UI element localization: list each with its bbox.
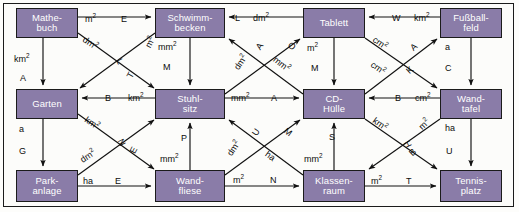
edge-label-e20: ha bbox=[83, 177, 93, 186]
edge-label-e28: ha bbox=[445, 124, 455, 133]
node-wandfliese[interactable]: Wand- fliese bbox=[155, 170, 225, 202]
edge-label-e11: m2 bbox=[307, 44, 318, 53]
node-wandtafel[interactable]: Wand- tafel bbox=[440, 89, 502, 119]
edge-label-exponent: 2 bbox=[319, 152, 323, 159]
edge-label-exponent: 2 bbox=[173, 40, 177, 47]
edge-label-exponent: 2 bbox=[426, 11, 430, 18]
node-tablett[interactable]: Tablett bbox=[303, 8, 365, 38]
edge-label-e01: E bbox=[121, 15, 127, 24]
edge-label-exponent: 2 bbox=[241, 173, 245, 180]
edge-label-e17: a bbox=[19, 125, 24, 134]
edge-label-text: dm bbox=[253, 13, 266, 23]
edge-label-exponent: 2 bbox=[427, 91, 431, 98]
edge-label-exponent: 2 bbox=[26, 52, 30, 59]
edge-label-e24: S bbox=[329, 133, 335, 142]
node-label-tablett: Tablett bbox=[320, 18, 349, 29]
edge-label-e25: N bbox=[270, 176, 277, 185]
edge-label-e05: mm2 bbox=[158, 43, 177, 52]
edge-label-e08: a bbox=[445, 43, 450, 52]
edge-label-exponent: 2 bbox=[93, 12, 97, 19]
node-stuhlsitz[interactable]: Stuhl- sitz bbox=[155, 89, 225, 119]
edge-label-text: km bbox=[14, 54, 26, 64]
node-fussballfeld[interactable]: Fußball- feld bbox=[440, 8, 502, 38]
edge-label-e21: P bbox=[181, 134, 187, 143]
edge-label-e15: A bbox=[271, 94, 277, 103]
node-label-wandtafel: Wand- tafel bbox=[457, 94, 485, 115]
edge-label-e16: B bbox=[395, 94, 401, 103]
edge-label-e14: km2 bbox=[128, 94, 144, 103]
node-label-fussballfeld: Fußball- feld bbox=[453, 13, 489, 34]
edge-label-text: N bbox=[270, 175, 277, 185]
node-klassenraum[interactable]: Klassen- raum bbox=[303, 170, 365, 202]
edge-label-exponent: 2 bbox=[266, 11, 270, 18]
edge-label-exponent: 2 bbox=[315, 41, 319, 48]
edge-label-e06: dm2 bbox=[253, 14, 269, 23]
edge-label-text: W bbox=[392, 13, 401, 23]
edge-label-text: mm bbox=[231, 93, 246, 103]
edge-label-text: E bbox=[115, 176, 121, 186]
edge-label-e11: M bbox=[311, 64, 319, 73]
node-parkanlage[interactable]: Park- anlage bbox=[16, 170, 78, 202]
edge-label-text: A bbox=[20, 73, 26, 83]
edge-label-e02: km2 bbox=[14, 55, 30, 64]
edge-label-text: B bbox=[105, 93, 111, 103]
edge-label-e02: A bbox=[20, 74, 26, 83]
edge-label-text: km bbox=[414, 13, 426, 23]
edge-label-e01: m2 bbox=[85, 15, 96, 24]
node-label-garten: Garten bbox=[32, 99, 62, 110]
node-label-mathebuch: Mathe- buch bbox=[32, 13, 62, 34]
node-mathebuch[interactable]: Mathe- buch bbox=[16, 8, 78, 38]
edge-label-text: M bbox=[163, 62, 171, 72]
edge-label-e17: G bbox=[19, 147, 26, 156]
node-cdhuelle[interactable]: CD- Hülle bbox=[303, 89, 365, 119]
edge-label-e06: L bbox=[235, 14, 240, 23]
node-label-tennisplatz: Tennis- platz bbox=[455, 176, 486, 197]
edge-label-e20: E bbox=[115, 177, 121, 186]
node-tennisplatz[interactable]: Tennis- platz bbox=[440, 170, 502, 202]
edge-label-text: E bbox=[121, 14, 127, 24]
edge-label-e08: C bbox=[445, 64, 452, 73]
edge-label-text: ha bbox=[445, 123, 455, 133]
edge-label-text: mm bbox=[158, 42, 173, 52]
edge-label-text: m bbox=[233, 175, 241, 185]
edge-label-exponent: 2 bbox=[246, 91, 250, 98]
edge-label-text: a bbox=[445, 42, 450, 52]
edge-label-e29: T bbox=[406, 177, 412, 186]
edge-label-text: L bbox=[235, 13, 240, 23]
edge-label-text: G bbox=[19, 146, 26, 156]
node-schwimmbecken[interactable]: Schwimm- becken bbox=[155, 8, 225, 38]
edge-label-exponent: 2 bbox=[175, 152, 179, 159]
edge-label-text: a bbox=[19, 124, 24, 134]
edge-label-text: m bbox=[85, 14, 93, 24]
edge-label-text: mm bbox=[304, 154, 319, 164]
edge-label-e16: cm2 bbox=[415, 94, 431, 103]
node-label-parkanlage: Park- anlage bbox=[32, 176, 61, 197]
edge-label-e29: m2 bbox=[371, 177, 382, 186]
edge-label-text: P bbox=[181, 133, 187, 143]
edge-label-text: cm bbox=[415, 93, 427, 103]
edge-label-e21: mm2 bbox=[160, 155, 179, 164]
edge-label-text: ha bbox=[83, 176, 93, 186]
node-label-wandfliese: Wand- fliese bbox=[176, 176, 204, 197]
edge-label-text: mm bbox=[160, 154, 175, 164]
edge-label-exponent: 2 bbox=[379, 174, 383, 181]
node-label-schwimmbecken: Schwimm- becken bbox=[167, 13, 212, 34]
diagram-canvas: Mathe- buchSchwimm- beckenTablettFußball… bbox=[0, 0, 519, 212]
edge-label-text: m bbox=[371, 176, 379, 186]
edge-label-text: C bbox=[445, 63, 452, 73]
edge-label-text: B bbox=[395, 93, 401, 103]
node-garten[interactable]: Garten bbox=[16, 89, 78, 119]
edge-label-e28: U bbox=[446, 147, 453, 156]
node-label-cdhuelle: CD- Hülle bbox=[323, 94, 345, 115]
edge-label-text: A bbox=[271, 93, 277, 103]
edge-label-text: S bbox=[329, 132, 335, 142]
edge-label-e07: km2 bbox=[414, 14, 430, 23]
edge-label-e05: M bbox=[163, 63, 171, 72]
edge-label-exponent: 2 bbox=[140, 91, 144, 98]
edge-label-e07: W bbox=[392, 14, 401, 23]
edge-label-text: U bbox=[446, 146, 453, 156]
edge-label-text: m bbox=[307, 43, 315, 53]
node-label-klassenraum: Klassen- raum bbox=[315, 176, 353, 197]
edge-label-text: M bbox=[311, 63, 319, 73]
edge-label-e15: mm2 bbox=[231, 94, 250, 103]
